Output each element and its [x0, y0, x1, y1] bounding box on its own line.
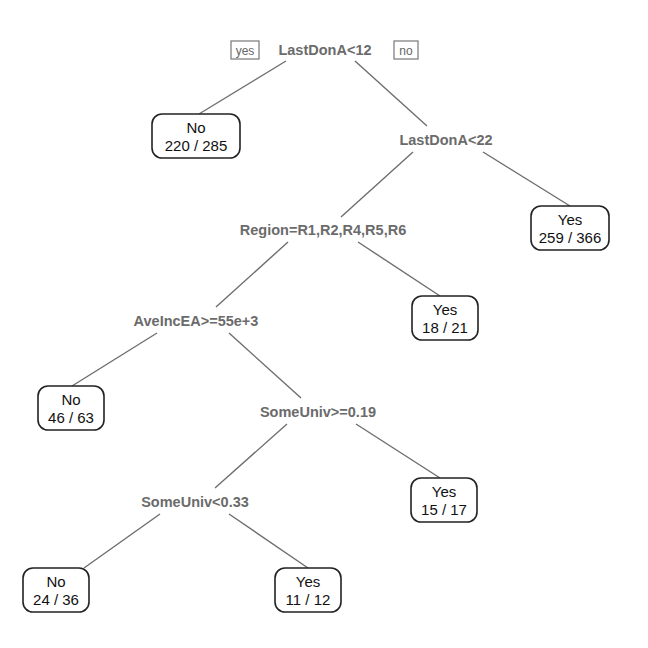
leaf-class-label: Yes — [432, 483, 456, 500]
leaf-node: Yes259 / 366 — [531, 206, 609, 250]
leaf-count-label: 24 / 36 — [33, 591, 79, 608]
tree-edge — [341, 152, 413, 217]
leaf-count-label: 11 / 12 — [286, 591, 331, 608]
split-nodes: LastDonA<12LastDonA<22Region=R1,R2,R4,R5… — [134, 42, 493, 510]
no-branch-tag: no — [394, 41, 418, 59]
tree-edge — [356, 424, 440, 478]
decision-tree: yes no LastDonA<12LastDonA<22Region=R1,R… — [0, 0, 648, 648]
tree-edge — [84, 514, 160, 568]
leaf-nodes: No220 / 285Yes259 / 366Yes18 / 21No46 / … — [23, 114, 609, 612]
leaf-count-label: 15 / 17 — [421, 501, 467, 518]
leaf-class-label: No — [46, 573, 65, 590]
tree-edge — [72, 333, 157, 386]
leaf-node: No24 / 36 — [23, 568, 89, 612]
tree-edge — [483, 152, 570, 206]
leaf-count-label: 220 / 285 — [165, 137, 228, 154]
yes-branch-label: yes — [236, 44, 255, 58]
leaf-class-label: Yes — [558, 211, 582, 228]
tree-edge — [199, 61, 286, 114]
split-node-label: Region=R1,R2,R4,R5,R6 — [240, 222, 406, 238]
tree-edge — [355, 61, 427, 126]
no-branch-label: no — [399, 44, 413, 58]
yes-branch-tag: yes — [231, 41, 259, 59]
leaf-node: Yes11 / 12 — [275, 568, 341, 612]
leaf-class-label: Yes — [296, 573, 320, 590]
leaf-node: No220 / 285 — [152, 114, 240, 158]
split-node-label: SomeUniv>=0.19 — [260, 404, 376, 420]
tree-edge — [358, 242, 440, 296]
split-node-label: AveIncEA>=55e+3 — [134, 313, 259, 329]
leaf-class-label: No — [186, 119, 205, 136]
split-node-label: LastDonA<12 — [278, 42, 371, 58]
tree-edge — [229, 333, 301, 398]
leaf-class-label: Yes — [433, 301, 457, 318]
leaf-node: Yes18 / 21 — [412, 296, 478, 340]
leaf-count-label: 18 / 21 — [422, 319, 468, 336]
split-node-label: LastDonA<22 — [399, 132, 492, 148]
tree-edge — [215, 424, 287, 488]
leaf-count-label: 259 / 366 — [539, 229, 602, 246]
split-node-label: SomeUniv<0.33 — [141, 494, 249, 510]
leaf-count-label: 46 / 63 — [48, 409, 94, 426]
leaf-class-label: No — [61, 391, 80, 408]
tree-edge — [216, 242, 288, 307]
leaf-node: Yes15 / 17 — [411, 478, 477, 522]
leaf-node: No46 / 63 — [38, 386, 104, 430]
tree-edge — [229, 514, 308, 568]
